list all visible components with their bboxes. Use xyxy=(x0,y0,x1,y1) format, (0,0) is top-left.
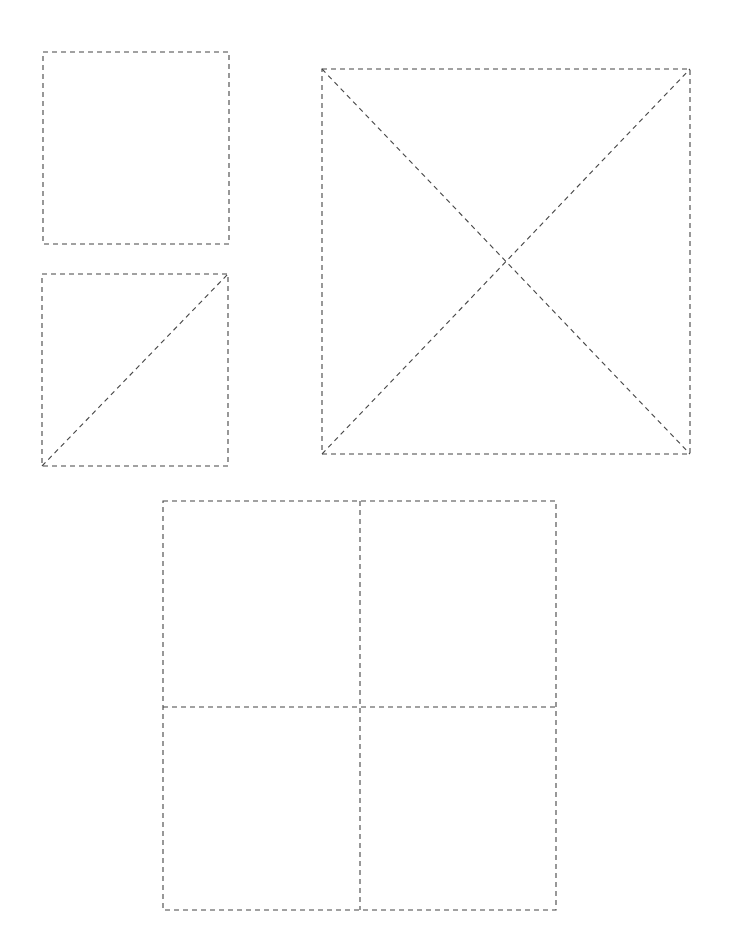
square-quartered xyxy=(163,501,556,910)
square-both-diagonals xyxy=(322,69,690,454)
plain-square xyxy=(43,52,229,244)
square-single-diagonal xyxy=(42,274,228,466)
square-outline xyxy=(163,501,556,910)
diagonal-line xyxy=(42,274,228,466)
diagram-canvas xyxy=(0,0,732,944)
